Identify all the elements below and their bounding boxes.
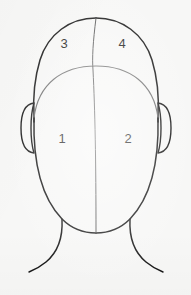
- left-ear: [21, 103, 34, 153]
- head-diagram: [0, 0, 191, 295]
- region-label-2: 2: [120, 132, 136, 145]
- hairline-arc: [34, 66, 158, 118]
- neck-left: [29, 219, 62, 272]
- region-label-3: 3: [56, 37, 72, 50]
- neck-right: [130, 219, 163, 272]
- head-outline-left: [34, 18, 96, 122]
- right-ear: [158, 103, 171, 153]
- diagram-canvas: 3 4 1 2: [0, 0, 191, 295]
- region-label-1: 1: [54, 132, 70, 145]
- midline: [93, 18, 96, 233]
- head-outline: [96, 18, 158, 122]
- region-label-4: 4: [114, 37, 130, 50]
